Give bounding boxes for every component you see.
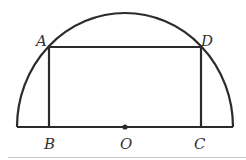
- semicircle-rectangle-diagram: A D B O C: [0, 0, 246, 160]
- label-c: C: [194, 135, 206, 153]
- label-a: A: [34, 32, 47, 50]
- label-b: B: [43, 135, 55, 153]
- label-d: D: [200, 32, 213, 50]
- label-o: O: [120, 135, 132, 153]
- center-point-o: [122, 124, 127, 129]
